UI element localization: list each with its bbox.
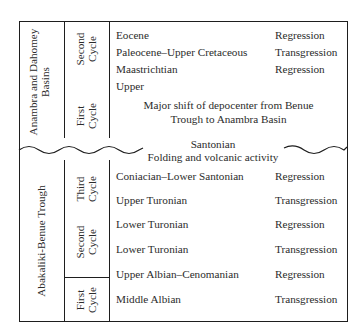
event-cell: Regression: [275, 63, 325, 76]
age-cell: Coniacian–Lower Santonian: [116, 170, 244, 183]
unconformity-event: Folding and volcanic activity: [140, 151, 286, 164]
age-cell: Upper Albian–Cenomanian: [116, 268, 239, 281]
cycle-label-line1: Second: [74, 222, 86, 262]
lower-second-cycle-label: Second Cycle: [74, 222, 100, 262]
age-cell: Lower Turonian: [116, 218, 188, 231]
lower-region-label: Abakaliki-Benue Trough: [35, 181, 49, 301]
frame-top-border: [19, 21, 348, 22]
cycle-label-line1: Third: [74, 169, 86, 209]
event-cell: Transgression: [275, 293, 337, 306]
age-cell: Upper: [116, 80, 144, 93]
upper-region-label-line1: Anambra and Dahomey: [27, 22, 39, 142]
cycle-label-line1: Second: [74, 29, 86, 69]
age-cell: Upper Turonian: [116, 194, 187, 207]
upper-second-cycle-label: Second Cycle: [74, 29, 100, 69]
event-cell: Regression: [275, 218, 325, 231]
lower-first-cycle-label: First Cycle: [74, 280, 100, 320]
age-cell: Eocene: [116, 29, 149, 42]
upper-region-divider: [64, 21, 65, 138]
unconformity-wave-right: [284, 143, 348, 157]
cycle-label-line2: Cycle: [86, 169, 98, 209]
event-cell: Transgression: [275, 243, 337, 256]
lower-first-cycle-top-border: [64, 277, 110, 278]
depocenter-note-line1: Major shift of depocenter from Benue: [110, 99, 347, 112]
lower-cycle-divider: [109, 160, 110, 322]
frame-left-border: [19, 21, 20, 322]
event-cell: Regression: [275, 268, 325, 281]
cycle-label-line2: Cycle: [86, 280, 98, 320]
event-cell: Transgression: [275, 194, 337, 207]
event-cell: Regression: [275, 170, 325, 183]
cycle-label-line2: Cycle: [86, 222, 98, 262]
age-cell: Lower Turonian: [116, 243, 188, 256]
cycle-label-line2: Cycle: [86, 96, 98, 136]
event-cell: Transgression: [275, 46, 337, 59]
cycle-label-line2: Cycle: [86, 29, 98, 69]
age-cell: Middle Albian: [116, 293, 181, 306]
frame-right-border: [347, 21, 348, 322]
lower-third-cycle-label: Third Cycle: [74, 169, 100, 209]
upper-first-cycle-label: First Cycle: [74, 96, 100, 136]
upper-region-label: Anambra and Dahomey Basins: [27, 22, 57, 142]
cycle-label-line1: First: [74, 96, 86, 136]
unconformity-wave-left: [19, 143, 143, 157]
age-cell: Paleocene–Upper Cretaceous: [116, 46, 247, 59]
unconformity-age: Santonian: [140, 138, 286, 151]
upper-region-label-line2: Basins: [39, 22, 51, 142]
frame-bottom-border: [19, 321, 348, 322]
cycle-label-line1: First: [74, 280, 86, 320]
event-cell: Regression: [275, 29, 325, 42]
age-cell: Maastrichtian: [116, 63, 178, 76]
lower-region-divider: [64, 160, 65, 322]
depocenter-note-line2: Trough to Anambra Basin: [110, 113, 347, 126]
